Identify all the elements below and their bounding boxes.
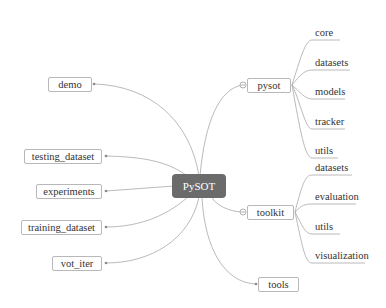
node-vot-iter[interactable]: vot_iter [52, 256, 102, 271]
leaf-pysot-utils[interactable]: utils [315, 144, 333, 157]
leaf-toolkit-visualization[interactable]: visualization [315, 249, 369, 262]
node-testing-dataset[interactable]: testing_dataset [24, 149, 102, 164]
leaf-pysot-models[interactable]: models [315, 85, 345, 98]
leaf-toolkit-utils[interactable]: utils [315, 220, 333, 233]
leaf-pysot-datasets[interactable]: datasets [315, 56, 348, 69]
node-demo[interactable]: demo [48, 77, 92, 92]
node-pysot[interactable]: pysot [247, 78, 291, 93]
leaf-toolkit-evaluation[interactable]: evaluation [315, 190, 359, 203]
node-experiments[interactable]: experiments [36, 184, 102, 199]
leaf-toolkit-datasets[interactable]: datasets [315, 161, 348, 174]
leaf-pysot-core[interactable]: core [315, 26, 333, 39]
node-tools[interactable]: tools [258, 277, 299, 292]
leaf-pysot-tracker[interactable]: tracker [315, 115, 344, 128]
node-toolkit[interactable]: toolkit [247, 205, 294, 220]
connector-dot [93, 83, 96, 86]
root-node[interactable]: PySOT [172, 174, 226, 198]
node-training-dataset[interactable]: training_dataset [21, 220, 102, 235]
